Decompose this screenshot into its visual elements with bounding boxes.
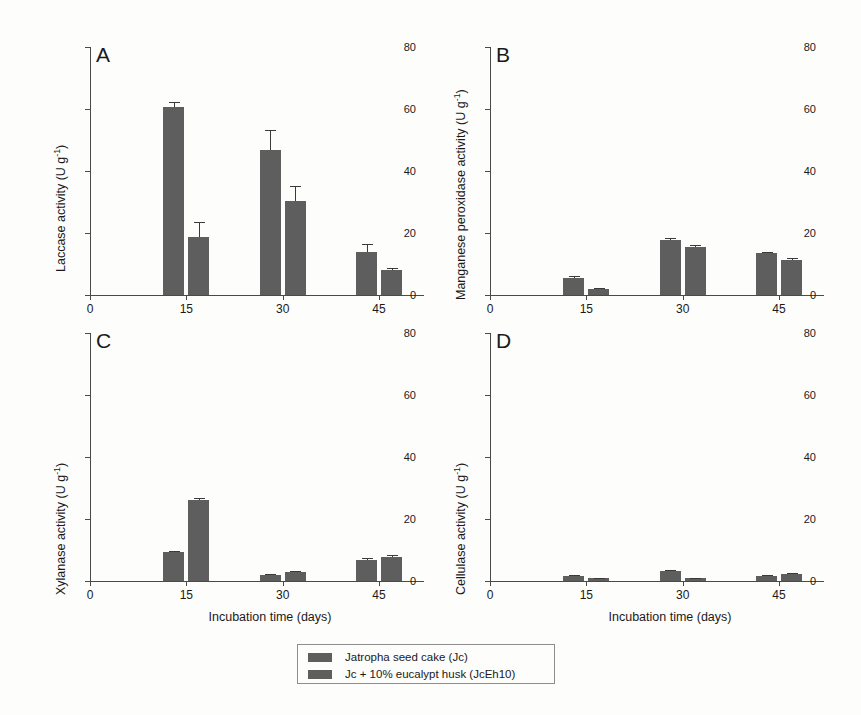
y-axis-line [490,47,491,295]
x-axis-tick-label: 45 [372,589,385,601]
x-axis-tick-label: 30 [276,303,289,315]
y-axis-tick [485,519,490,520]
y-axis-tick [485,333,490,334]
bar [188,500,209,581]
error-bar-cap [194,222,205,223]
panel-a-plot-area: 0204060800153045 [90,47,424,295]
y-axis-line [90,333,91,581]
panel-d: Cellulase activity (U g-1) 0204060800153… [431,320,861,640]
error-bar-cap [387,555,398,556]
legend-swatch-jc [308,653,332,662]
panel-b-y-axis-label: Manganese peroxidase activity (U g-1) [452,89,468,300]
x-axis-tick [683,581,684,586]
bar [756,253,777,295]
y-axis-tick [85,457,90,458]
panel-b-plot-area: 0204060800153045 [490,47,824,295]
y-axis-tick-label: 20 [804,228,816,238]
x-axis-tick [186,295,187,300]
y-axis-tick [485,47,490,48]
bar [756,576,777,581]
x-axis-tick-label: 0 [487,589,494,601]
y-axis-line [90,47,91,295]
error-bar [199,222,200,238]
y-axis-tick-label: 20 [804,514,816,524]
y-axis-tick-label: 60 [804,104,816,114]
error-bar-cap [169,102,180,103]
legend-item: Jatropha seed cake (Jc) [308,649,554,665]
bar [381,270,402,295]
bar [685,247,706,295]
panel-a-y-axis-label: Laccase activity (U g-1) [52,145,68,272]
bar [563,576,584,581]
error-bar-cap [569,276,580,277]
legend-item: Jc + 10% eucalypt husk (JcEh10) [308,666,554,682]
error-bar-cap [290,186,301,187]
panel-d-x-axis-label: Incubation time (days) [609,610,732,624]
error-bar-cap [762,575,773,576]
bar [260,575,281,581]
x-axis-tick [186,581,187,586]
panel-d-y-axis-label: Cellulase activity (U g-1) [452,463,468,595]
x-axis-tick-label: 0 [487,303,494,315]
legend-swatch-jceh10 [308,670,332,679]
x-axis-tick-label: 0 [87,589,94,601]
x-axis-tick-label: 30 [276,589,289,601]
bar [660,571,681,581]
x-axis-tick [283,295,284,300]
y-axis-tick [85,47,90,48]
y-axis-tick-label: 80 [804,328,816,338]
error-bar-cap [787,258,798,259]
y-axis-tick [485,171,490,172]
x-axis-tick [683,295,684,300]
error-bar-cap [762,252,773,253]
x-axis-tick-label: 30 [676,303,689,315]
y-axis-tick [85,333,90,334]
error-bar-cap [194,498,205,499]
x-axis-tick-label: 45 [772,589,785,601]
x-axis-line [90,581,424,582]
x-axis-line [490,581,824,582]
bar [163,552,184,581]
error-bar [295,186,296,201]
bar [660,240,681,295]
panel-d-plot-area: 0204060800153045 [490,333,824,581]
x-axis-tick [90,295,91,300]
y-axis-tick-label: 80 [404,328,416,338]
x-axis-line [90,295,424,296]
panel-c-letter: C [96,330,111,351]
x-axis-tick-label: 0 [87,303,94,315]
bar [588,289,609,295]
y-axis-tick-label: 40 [404,452,416,462]
error-bar-cap [665,238,676,239]
y-axis-tick-label: 20 [404,514,416,524]
panel-c-x-axis-label: Incubation time (days) [209,610,332,624]
y-axis-tick [485,395,490,396]
y-axis-tick [85,171,90,172]
x-axis-tick [90,581,91,586]
bar [381,557,402,581]
y-axis-tick-label: 60 [804,390,816,400]
x-axis-line [490,295,824,296]
x-axis-tick-label: 30 [676,589,689,601]
bar [285,572,306,581]
error-bar-cap [690,578,701,579]
y-axis-tick-label: 0 [410,290,416,300]
x-axis-tick [490,295,491,300]
error-bar-cap [265,574,276,575]
error-bar-cap [594,288,605,289]
bar [588,578,609,581]
error-bar-cap [594,578,605,579]
error-bar [270,130,271,150]
bar [356,560,377,581]
panel-a: Laccase activity (U g-1) 020406080015304… [0,0,430,320]
panel-a-letter: A [96,44,110,65]
legend: Jatropha seed cake (Jc) Jc + 10% eucalyp… [297,644,555,684]
error-bar-cap [290,571,301,572]
error-bar-cap [787,573,798,574]
x-axis-tick [283,581,284,586]
x-axis-tick-label: 45 [372,303,385,315]
bar [781,260,802,295]
bar [285,201,306,295]
panel-c: Xylanase activity (U g-1) 02040608001530… [0,320,430,640]
y-axis-tick-label: 60 [404,104,416,114]
